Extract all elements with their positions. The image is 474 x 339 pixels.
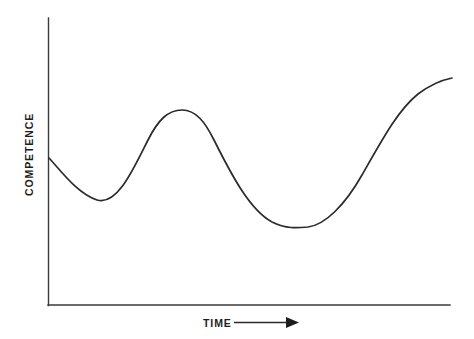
y-axis-label: COMPETENCE (23, 113, 35, 196)
x-axis-label: TIME (203, 317, 232, 329)
chart-figure: TIME COMPETENCE (0, 0, 474, 339)
competence-curve (49, 78, 452, 228)
right-arrow-icon (286, 317, 299, 328)
chart-canvas: TIME COMPETENCE (0, 0, 474, 339)
